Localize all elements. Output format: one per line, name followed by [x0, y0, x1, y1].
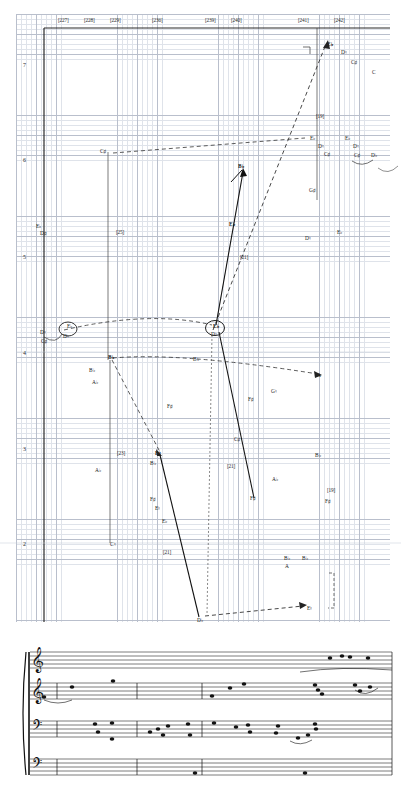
inner-measure-label: [25] — [116, 229, 124, 235]
pitch-label: B♭ — [108, 355, 114, 361]
measure-label: [227] — [58, 17, 68, 23]
pitch-label: D♮ — [318, 144, 324, 150]
pitch-label: F♯ — [167, 404, 173, 410]
inner-measure-label: [21] — [227, 463, 235, 469]
pitch-label: B♭ — [302, 556, 308, 562]
dashed-strand-cis-to-eb — [113, 138, 305, 153]
clef-group: 𝄞 𝄞 𝄢 𝄢 — [31, 647, 44, 774]
pitch-label: B♭ — [89, 368, 95, 374]
pitch-label: D♮ — [40, 330, 46, 336]
pitch-label: D♮ — [305, 236, 311, 242]
pitch-label: E♭ — [337, 230, 342, 236]
strand-descending-left-lower — [160, 455, 199, 617]
pitch-label: F♯ — [248, 397, 254, 403]
dashed-arc-left-to-center — [64, 319, 212, 330]
pitch-label: E♭ — [229, 222, 235, 228]
note-group — [42, 654, 373, 774]
pitch-label: F♯ — [325, 499, 331, 505]
pitch-label: E♮ — [307, 606, 312, 612]
pitch-label: E♭ — [67, 324, 72, 330]
dashed-center-axis — [207, 335, 212, 615]
measure-barlines — [57, 652, 392, 775]
pitch-label: C♯ — [354, 153, 360, 159]
pitch-label: A — [285, 564, 289, 570]
pitch-label: B♭ — [193, 357, 199, 363]
pitch-label: C♯ — [41, 339, 47, 345]
arrowhead-bottom-e — [299, 602, 307, 609]
pitch-label: E♭ — [327, 42, 333, 48]
pitch-label: A♭ — [92, 380, 98, 386]
arc-far-right — [378, 166, 398, 172]
pitch-label: D♮ — [353, 144, 359, 150]
system-brace — [23, 652, 26, 775]
graph-vector-layer — [0, 0, 401, 630]
inner-measure-label: [19] — [316, 113, 324, 119]
pitch-label: G♮ — [271, 389, 277, 395]
inner-measure-label: [21] — [240, 254, 248, 260]
slur-right-pitches — [352, 160, 373, 164]
pitch-label: C♮ — [110, 542, 116, 548]
measure-label: [236] — [152, 17, 162, 23]
bracket-tick-lower-right — [328, 573, 334, 608]
measure-label: [242] — [334, 17, 344, 23]
pitch-label: E♭ — [310, 136, 315, 142]
inner-measure-label: [21] — [163, 549, 171, 555]
pitch-label: B♮ — [155, 451, 161, 457]
dashed-arc-center-to-a — [113, 357, 318, 374]
octave-label: 4 — [23, 350, 26, 356]
octave-label: 3 — [23, 446, 26, 452]
pitch-label: A♭ — [272, 477, 278, 483]
pitch-label: D♭ — [197, 618, 203, 624]
svg-text:𝄞: 𝄞 — [31, 678, 44, 704]
pitch-label: A — [317, 373, 321, 379]
dashed-strand-bottom — [205, 606, 303, 616]
strand-descending-right — [219, 332, 254, 498]
octave-label: 6 — [23, 157, 26, 163]
pitch-label: C♯ — [324, 152, 330, 158]
pitch-label: D♮ — [211, 332, 217, 338]
pitch-label: B♭ — [315, 453, 321, 459]
pitch-label: E♭ — [345, 136, 350, 142]
pitch-label: E♮ — [155, 506, 160, 512]
inner-measure-label: [23] — [117, 450, 125, 456]
svg-text:𝄢: 𝄢 — [32, 717, 42, 736]
pitch-label: B♭ — [150, 461, 156, 467]
pitch-label: E♭ — [162, 519, 167, 525]
pitch-label: B♭ — [238, 164, 244, 170]
dashed-strand-left-descent — [112, 360, 160, 452]
octave-label: 2 — [23, 541, 26, 547]
octave-label: 7 — [23, 62, 26, 68]
measure-label: [229] — [110, 17, 120, 23]
svg-text:𝄞: 𝄞 — [31, 647, 44, 673]
score-excerpt: 𝄞 𝄞 𝄢 𝄢 — [0, 628, 401, 795]
measure-label: [239] — [205, 17, 215, 23]
bracket-tick-upper-right — [303, 47, 310, 54]
score-vector-layer: 𝄞 𝄞 𝄢 𝄢 — [0, 628, 401, 795]
inner-measure-label: [19] — [327, 487, 335, 493]
octave-label: 5 — [23, 254, 26, 260]
pitch-label: E♭ — [213, 324, 219, 330]
pitch-label: D♭ — [371, 153, 377, 159]
pitch-label: C — [372, 70, 376, 76]
pitch-label: A♭ — [95, 468, 101, 474]
voice-leading-analysis-graph: [227][228][229][236][239][240][241][242]… — [0, 0, 401, 630]
pitch-label: B♭ — [284, 556, 290, 562]
pitch-label: C♯ — [100, 149, 106, 155]
pitch-label: C♯ — [351, 60, 357, 66]
pitch-label: D♯ — [40, 231, 47, 237]
measure-label: [228] — [84, 17, 94, 23]
pitch-label: F♯ — [250, 496, 256, 502]
pitch-label: D♮ — [341, 50, 347, 56]
svg-text:𝄢: 𝄢 — [32, 755, 42, 774]
pitch-label: G♯ — [309, 188, 316, 194]
pitch-label: E♭ — [36, 224, 41, 230]
pitch-label: C♯ — [234, 437, 240, 443]
measure-label: [241] — [298, 17, 308, 23]
strand-bb-ascending — [216, 172, 243, 325]
pitch-label: F♯ — [150, 497, 156, 503]
measure-label: [240] — [231, 17, 241, 23]
pitch-label: D♮ — [63, 334, 69, 340]
